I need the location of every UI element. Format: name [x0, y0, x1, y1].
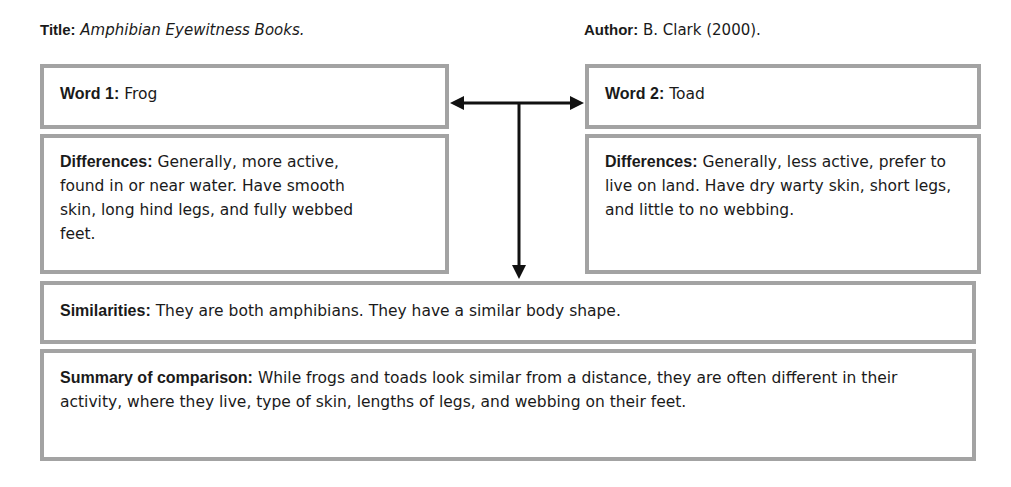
title-label: Title: — [40, 21, 76, 38]
word1-value: Frog — [124, 85, 157, 103]
title-line: Title: Amphibian Eyewitness Books. — [40, 21, 305, 39]
author-label: Author: — [584, 21, 638, 38]
down-arrow-icon — [512, 103, 526, 279]
word2-value: Toad — [669, 85, 705, 103]
similarities-text: They are both amphibians. They have a si… — [156, 302, 621, 320]
author-line: Author: B. Clark (2000). — [584, 21, 761, 39]
word1-label: Word 1: — [60, 85, 119, 102]
horizontal-double-arrow-icon — [450, 96, 584, 110]
summary-box: Summary of comparison: While frogs and t… — [40, 349, 976, 461]
similarities-box: Similarities: They are both amphibians. … — [40, 281, 976, 344]
word2-label: Word 2: — [605, 85, 664, 102]
word1-box: Word 1: Frog — [40, 64, 449, 129]
word2-box: Word 2: Toad — [585, 64, 981, 129]
differences2-label: Differences: — [605, 153, 697, 170]
differences1-box: Differences: Generally, more active, fou… — [40, 134, 449, 274]
differences1-label: Differences: — [60, 153, 152, 170]
summary-label: Summary of comparison: — [60, 369, 253, 386]
title-value: Amphibian Eyewitness Books. — [80, 21, 304, 39]
differences2-box: Differences: Generally, less active, pre… — [585, 134, 981, 274]
similarities-label: Similarities: — [60, 302, 151, 319]
author-value: B. Clark (2000). — [643, 21, 761, 39]
